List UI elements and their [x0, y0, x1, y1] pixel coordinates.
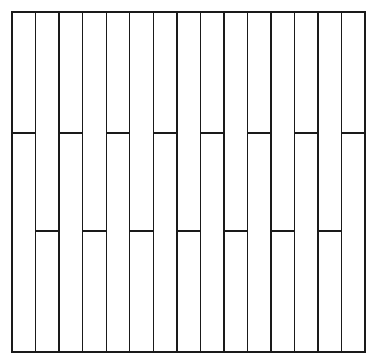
panel-group [12, 12, 365, 352]
tile-pattern-diagram [0, 0, 378, 364]
tile-pattern-figure [0, 0, 378, 364]
panel-outline [12, 12, 365, 352]
